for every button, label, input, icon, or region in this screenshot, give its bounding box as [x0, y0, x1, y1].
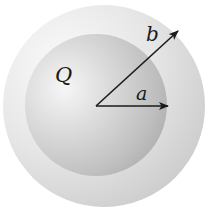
charge-label: Q [55, 65, 72, 86]
outer-radius-label: b [146, 24, 159, 44]
inner-radius-label: a [136, 84, 147, 103]
spheres-diagram [0, 0, 222, 213]
